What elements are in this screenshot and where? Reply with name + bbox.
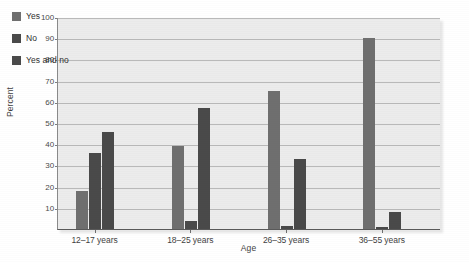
x-axis-tick-mark <box>382 230 383 233</box>
legend-item: Yes <box>12 6 69 26</box>
x-axis-tick-mark <box>190 230 191 233</box>
legend-swatch-icon <box>12 12 21 21</box>
legend-item-label: Yes <box>26 12 40 21</box>
gridline <box>58 103 440 104</box>
bar-chart: 102030405060708090100 Percent YesNoYes a… <box>0 0 469 262</box>
legend-item-label: Yes and no <box>26 56 69 65</box>
bar <box>294 159 306 229</box>
legend-swatch-icon <box>12 56 21 65</box>
legend-item: Yes and no <box>12 50 69 70</box>
x-axis-tick-mark <box>95 230 96 233</box>
gridline <box>58 124 440 125</box>
bar <box>102 132 114 230</box>
bar <box>76 191 88 229</box>
bar <box>363 38 375 229</box>
gridline <box>58 18 440 19</box>
y-axis-title: Percent <box>5 72 15 132</box>
gridline <box>58 166 440 167</box>
bar <box>281 226 293 229</box>
gridline <box>58 188 440 189</box>
bar <box>268 91 280 229</box>
bar <box>376 227 388 229</box>
bar <box>389 212 401 229</box>
legend-swatch-icon <box>12 34 21 43</box>
x-axis-title: Age <box>57 243 440 253</box>
bar <box>185 221 197 230</box>
legend-item-label: No <box>26 34 37 43</box>
legend: YesNoYes and no <box>12 6 69 72</box>
legend-item: No <box>12 28 69 48</box>
bar <box>89 153 101 229</box>
gridline <box>58 145 440 146</box>
gridline <box>58 39 440 40</box>
bar <box>172 146 184 229</box>
gridline <box>58 209 440 210</box>
bar <box>198 108 210 229</box>
gridline <box>58 82 440 83</box>
plot-area <box>57 18 440 230</box>
gridline <box>58 60 440 61</box>
x-axis-tick-mark <box>286 230 287 233</box>
